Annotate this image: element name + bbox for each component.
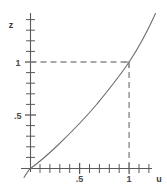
plot-background	[0, 0, 167, 185]
y-axis-title: z	[9, 20, 14, 30]
x-tick-label-1: 1	[127, 174, 132, 184]
x-tick-label-half: .5	[76, 174, 84, 184]
y-tick-label-1: 1	[15, 58, 20, 68]
x-axis-title: u	[156, 174, 162, 184]
chart-figure: 1 .5 .5 1 z u	[0, 0, 167, 185]
plot-canvas: 1 .5 .5 1 z u	[0, 0, 167, 185]
y-tick-label-half: .5	[14, 111, 22, 121]
